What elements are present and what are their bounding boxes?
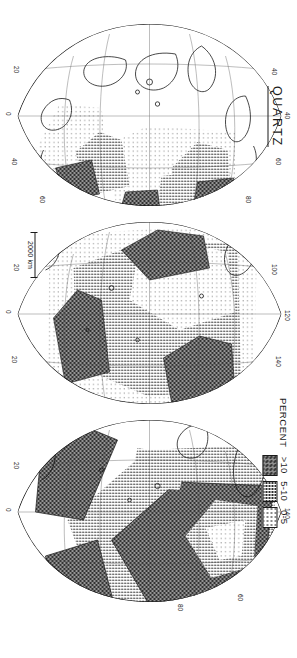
lat-label-top: 40 bbox=[270, 68, 277, 76]
lon-label: 140 bbox=[274, 356, 281, 367]
lat-label-right: 60 bbox=[236, 594, 243, 602]
lat-label-bottom: 0 bbox=[4, 310, 11, 314]
lon-label: 120 bbox=[283, 310, 290, 321]
legend-swatch-0-5 bbox=[262, 507, 277, 528]
lat-label-bottom: 0 bbox=[4, 112, 11, 116]
lat-label-top: 60 bbox=[274, 158, 281, 166]
lat-label-right: 80 bbox=[176, 604, 183, 612]
lat-label-bottom: 40 bbox=[10, 158, 17, 166]
map-canvas: 40 40 60 80 100 120 140 120 140 60 80 20… bbox=[0, 0, 297, 658]
scale-bar-label: 2000 km bbox=[26, 241, 33, 269]
legend-item-5-10: 5-10 bbox=[262, 481, 289, 502]
lat-label-bottom: 20 bbox=[12, 264, 19, 272]
lat-label-top: 80 bbox=[244, 196, 251, 204]
lat-label-bottom: 60 bbox=[38, 196, 45, 204]
lat-label-bottom: 20 bbox=[10, 356, 17, 364]
legend-item-0-5: 0-5 bbox=[262, 507, 289, 528]
legend-label: >10 bbox=[278, 457, 289, 474]
legend-label: 5-10 bbox=[278, 481, 289, 501]
figure-title: QUARTZ bbox=[267, 86, 283, 147]
lat-label-bottom: 20 bbox=[12, 66, 19, 74]
legend-title: PERCENT bbox=[277, 398, 289, 448]
lon-label: 100 bbox=[270, 264, 277, 275]
legend-item-gt10: >10 bbox=[262, 455, 289, 476]
rotation-wrapper: 40 40 60 80 100 120 140 120 140 60 80 20… bbox=[0, 0, 297, 658]
scale-bar: 2000 km bbox=[26, 232, 35, 278]
scale-bar-rule bbox=[34, 232, 35, 278]
legend-swatch-5-10 bbox=[262, 481, 277, 502]
figure-page: 40 40 60 80 100 120 140 120 140 60 80 20… bbox=[0, 0, 297, 658]
lat-label-bottom: 20 bbox=[12, 462, 19, 470]
legend-swatch-gt10 bbox=[262, 455, 277, 476]
lat-label-top: 40 bbox=[283, 112, 290, 120]
world-map: 40 40 60 80 100 120 140 120 140 60 80 20… bbox=[0, 0, 297, 658]
legend: PERCENT >10 5-10 0-5 bbox=[262, 398, 289, 528]
lat-label-bottom: 0 bbox=[4, 508, 11, 512]
legend-label: 0-5 bbox=[278, 510, 289, 524]
